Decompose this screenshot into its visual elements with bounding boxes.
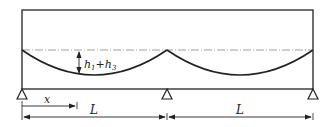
height-label: h1+h3 (84, 58, 117, 72)
support-right (308, 89, 318, 99)
support-middle (162, 89, 172, 99)
support-left (17, 89, 27, 99)
diagram-svg: h1+h3 x L L (0, 0, 335, 127)
x-label: x (44, 93, 51, 106)
span-label-left: L (89, 103, 98, 117)
beam-diagram: h1+h3 x L L (0, 0, 335, 127)
deflection-curve-right (167, 50, 313, 75)
span-label-right: L (235, 103, 244, 117)
